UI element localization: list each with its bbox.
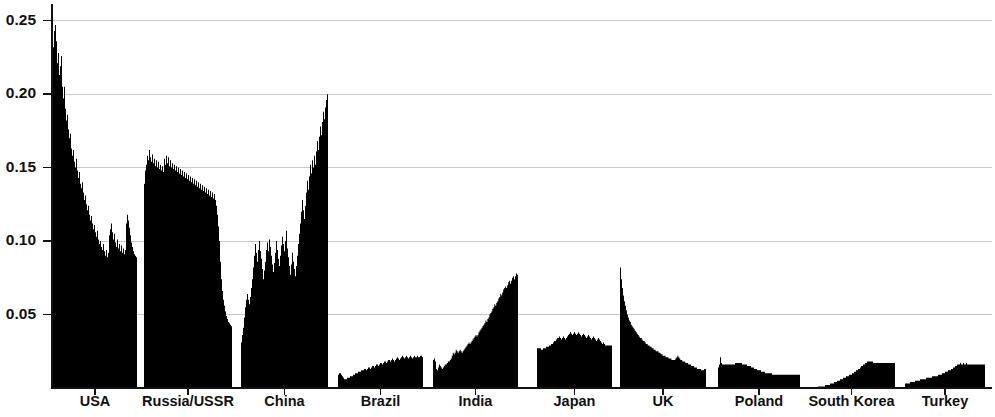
y-axis-tick-labels: 0.050.100.150.200.25 [6, 11, 37, 322]
area-india [433, 273, 518, 388]
series-areas [53, 25, 985, 388]
area-brazil [338, 356, 423, 388]
area-south-korea [808, 362, 895, 388]
x-axis-label-south-korea: South Korea [808, 393, 895, 409]
x-axis-label-usa: USA [80, 393, 111, 409]
y-tick-label-0.10: 0.10 [6, 231, 36, 248]
area-uk [620, 268, 706, 388]
chart-container: 0.050.100.150.200.25 USARussia/USSRChina… [0, 0, 995, 417]
x-axis-label-india: India [459, 393, 494, 409]
area-turkey [905, 363, 985, 388]
area-chart: 0.050.100.150.200.25 USARussia/USSRChina… [0, 0, 995, 417]
x-axis-label-poland: Poland [735, 393, 783, 409]
x-axis-label-japan: Japan [554, 393, 596, 409]
y-tick-label-0.25: 0.25 [6, 11, 37, 28]
x-axis-label-russia-ussr: Russia/USSR [142, 393, 234, 409]
x-axis-label-brazil: Brazil [361, 393, 401, 409]
y-tick-label-0.05: 0.05 [6, 305, 37, 322]
area-japan [537, 332, 612, 388]
x-axis-label-turkey: Turkey [922, 393, 968, 409]
area-usa [53, 25, 137, 388]
area-poland [718, 357, 800, 388]
x-axis-label-uk: UK [653, 393, 674, 409]
y-tick-label-0.15: 0.15 [6, 158, 37, 175]
y-tick-label-0.20: 0.20 [6, 84, 36, 101]
x-axis-label-china: China [264, 393, 305, 409]
area-russia-ussr [144, 150, 232, 388]
x-axis-category-labels: USARussia/USSRChinaBrazilIndiaJapanUKPol… [80, 393, 969, 409]
